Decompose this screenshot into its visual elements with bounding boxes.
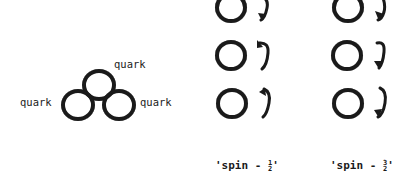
- caption-line-1: 'spin - 32': [330, 159, 403, 173]
- proton-circle: [216, 88, 248, 119]
- caption-line-1: 'spin - 12': [215, 159, 287, 173]
- quark-label-left: quark: [20, 96, 52, 108]
- quark-label-top: quark: [114, 58, 146, 70]
- spin-half-caption: 'spin - 12' proton and immediate relativ…: [215, 131, 287, 196]
- spin-arrow-icon: [371, 85, 389, 121]
- spin-arrow-icon: [371, 39, 389, 73]
- proton-circle: [331, 40, 363, 71]
- quark-label-right: quark: [140, 96, 172, 108]
- spin-arrow-icon: [372, 0, 390, 24]
- spin-arrow-icon: [255, 39, 273, 73]
- quark-circle-left: [61, 89, 95, 121]
- proton-circle: [215, 0, 247, 23]
- proton-circle: [332, 0, 364, 23]
- proton-circle: [215, 40, 247, 71]
- quark-circle-right: [102, 89, 136, 121]
- spin-three-halves-caption: 'spin - 32' 'souped-up' protons (heavier…: [330, 131, 403, 196]
- spin-arrow-icon: [255, 0, 273, 24]
- proton-circle: [332, 88, 364, 119]
- spin-arrow-icon: [256, 86, 274, 120]
